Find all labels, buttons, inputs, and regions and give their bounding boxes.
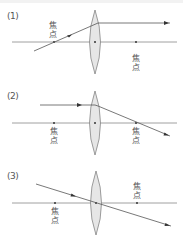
- arrow-icon: [71, 194, 77, 197]
- light-ray: [40, 105, 170, 136]
- arrow-icon: [165, 223, 171, 226]
- focus-label-left: 焦 点: [49, 127, 59, 145]
- diagram-panel-2: (2) 焦 点 焦 点: [0, 80, 183, 162]
- lens-diagram-1: [0, 0, 183, 82]
- arrow-icon: [164, 21, 169, 25]
- diagram-panel-1: (1) 焦 点 焦 点: [0, 0, 183, 82]
- lens-center-dot: [94, 122, 96, 124]
- arrow-icon: [67, 35, 72, 38]
- focus-label-right: 焦 点: [131, 127, 141, 145]
- focal-point-left: [53, 122, 55, 124]
- lens-diagram-3: [0, 160, 183, 244]
- focus-label-left: 焦 点: [48, 21, 58, 39]
- focal-point-left: [54, 202, 56, 204]
- focal-point-right: [136, 202, 138, 204]
- diagram-panel-3: (3) 焦 点 焦 点: [0, 160, 183, 244]
- focus-label-right: 焦 点: [131, 54, 141, 72]
- focal-point-right: [135, 41, 137, 43]
- lens-diagram-2: [0, 80, 183, 162]
- arrow-icon: [77, 103, 82, 107]
- lens-center-dot: [94, 41, 96, 43]
- focus-label-left: 焦 点: [50, 207, 60, 225]
- focus-label-right: 焦 点: [132, 182, 142, 200]
- arrow-icon: [164, 133, 170, 136]
